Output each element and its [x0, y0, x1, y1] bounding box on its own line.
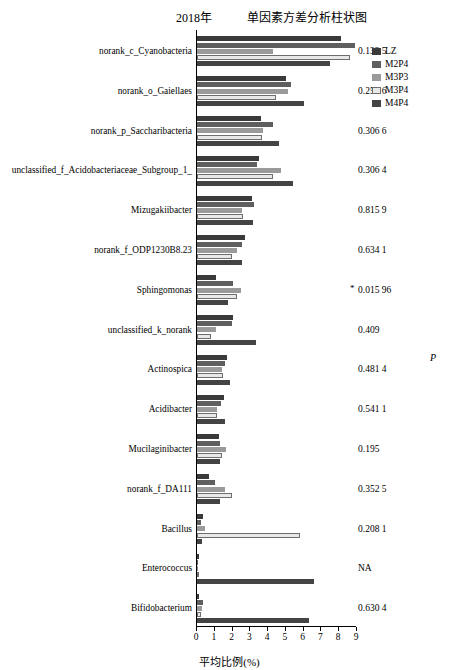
bar-2 — [197, 487, 225, 492]
chart-header: 2018年 单因素方差分析柱状图 — [0, 8, 459, 26]
x-tick-label: 6 — [300, 632, 305, 642]
bar-1 — [197, 520, 201, 525]
year-label: 2018年 — [176, 8, 212, 26]
category-label: norank_o_Gaiellaes — [118, 86, 192, 96]
bar-4 — [197, 300, 228, 305]
category-label: Bacillus — [162, 524, 192, 534]
legend-item: M3P3 — [372, 72, 452, 84]
bar-group — [197, 315, 356, 346]
bar-4 — [197, 340, 256, 345]
bar-0 — [197, 36, 341, 41]
x-tick — [320, 627, 321, 631]
p-value: 0.352 5 — [358, 484, 387, 494]
bar-0 — [197, 76, 286, 81]
bar-plot-area — [196, 30, 356, 627]
bar-4 — [197, 539, 202, 544]
bar-0 — [197, 315, 233, 320]
p-value: 0.208 1 — [358, 524, 387, 534]
x-tick-label: 4 — [265, 632, 270, 642]
legend-swatch-icon — [372, 48, 381, 55]
bar-1 — [197, 43, 355, 48]
bar-group — [197, 156, 356, 187]
bar-1 — [197, 162, 257, 167]
bar-0 — [197, 514, 203, 519]
category-label: norank_f_DA111 — [127, 484, 192, 494]
bar-1 — [197, 82, 291, 87]
bar-0 — [197, 474, 209, 479]
bar-3 — [197, 334, 211, 339]
p-value: 0.015 96 — [358, 285, 391, 295]
bar-4 — [197, 260, 242, 265]
bar-0 — [197, 235, 245, 240]
p-value: NA — [358, 563, 372, 573]
bar-3 — [197, 413, 217, 418]
x-tick — [267, 627, 268, 631]
legend-item: LZ — [372, 46, 452, 58]
bar-0 — [197, 156, 259, 161]
x-tick — [249, 627, 250, 631]
bar-1 — [197, 281, 233, 286]
p-column-header: P — [430, 352, 436, 363]
bar-3 — [197, 55, 350, 60]
x-tick-label: 9 — [354, 632, 359, 642]
bar-1 — [197, 321, 232, 326]
p-value: 0.306 6 — [358, 126, 387, 136]
bar-0 — [197, 116, 261, 121]
p-value: 0.409 — [358, 325, 379, 335]
bar-group — [197, 434, 356, 465]
bar-3 — [197, 254, 232, 259]
legend-item: M3P4 — [372, 85, 452, 97]
bar-group — [197, 36, 356, 67]
bar-4 — [197, 419, 225, 424]
bar-2 — [197, 447, 226, 452]
legend-swatch-icon — [372, 87, 381, 94]
category-label-column: norank_c_Cyanobacterianorank_o_Gaiellaes… — [0, 30, 194, 627]
category-label: Enterococcus — [142, 563, 192, 573]
legend-swatch-icon — [372, 61, 381, 68]
bar-group — [197, 395, 356, 426]
bar-group — [197, 235, 356, 266]
significance-mark: * — [350, 283, 355, 293]
bar-2 — [197, 49, 273, 54]
bar-3 — [197, 533, 300, 538]
x-tick — [338, 627, 339, 631]
bar-group — [197, 275, 356, 306]
category-label: Mizugakiibacter — [131, 205, 192, 215]
x-tick-label: 1 — [211, 632, 216, 642]
category-label: norank_p_Saccharibacteria — [91, 126, 192, 136]
bar-4 — [197, 579, 314, 584]
bar-4 — [197, 181, 293, 186]
x-tick-label: 3 — [247, 632, 252, 642]
bar-0 — [197, 395, 224, 400]
bar-3 — [197, 572, 199, 577]
bar-2 — [197, 168, 281, 173]
bar-4 — [197, 220, 253, 225]
bar-4 — [197, 141, 279, 146]
bar-1 — [197, 242, 242, 247]
bar-1 — [197, 122, 273, 127]
bar-3 — [197, 493, 232, 498]
bar-1 — [197, 361, 225, 366]
x-tick — [356, 627, 357, 631]
bar-1 — [197, 600, 203, 605]
chart-legend: LZM2P4M3P3M3P4M4P4 — [372, 46, 452, 111]
legend-label: LZ — [385, 46, 397, 56]
x-tick — [214, 627, 215, 631]
bar-4 — [197, 380, 230, 385]
bar-2 — [197, 288, 241, 293]
bar-3 — [197, 95, 276, 100]
x-axis-label: 平均比例(%) — [0, 653, 459, 669]
bar-2 — [197, 566, 198, 571]
bar-group — [197, 196, 356, 227]
bar-2 — [197, 128, 263, 133]
x-tick — [196, 627, 197, 631]
bar-0 — [197, 434, 219, 439]
category-label: norank_f_ODP1230B8.23 — [94, 245, 192, 255]
bar-3 — [197, 174, 273, 179]
bar-3 — [197, 612, 201, 617]
bar-group — [197, 554, 356, 585]
bar-3 — [197, 214, 243, 219]
x-tick — [285, 627, 286, 631]
bar-group — [197, 355, 356, 386]
legend-swatch-icon — [372, 100, 381, 107]
